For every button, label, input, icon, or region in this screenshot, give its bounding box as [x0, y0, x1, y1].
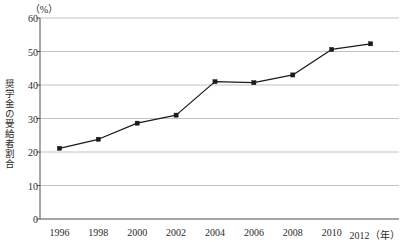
- x-tick-label: 1996: [49, 227, 69, 238]
- line-chart: （%） 奨学金の受給者割合 0102030405060 199619982000…: [0, 0, 406, 248]
- x-tick-label: 2006: [244, 227, 264, 238]
- x-tick-label: 2012（年）: [350, 227, 400, 242]
- x-tick-label: 2010: [322, 227, 342, 238]
- x-tick-label: 2008: [283, 227, 303, 238]
- x-tick-label: 1998: [88, 227, 108, 238]
- x-axis-unit-label: （年）: [370, 230, 400, 241]
- x-axis-tick-labels: 199619982000200220042006200820102012（年）: [0, 0, 406, 248]
- x-tick-label: 2002: [166, 227, 186, 238]
- x-tick-label-text: 2012: [350, 230, 370, 241]
- x-tick-label: 2004: [205, 227, 225, 238]
- x-tick-label: 2000: [127, 227, 147, 238]
